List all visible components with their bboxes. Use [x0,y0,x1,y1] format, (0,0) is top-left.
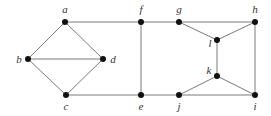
graph-labels: abcdefghijkl [16,3,258,112]
node-i [252,92,258,98]
node-label-a: a [62,3,68,15]
node-l [214,37,220,43]
node-label-k: k [207,64,213,76]
edge-h-l [217,22,255,40]
node-label-e: e [139,100,144,112]
node-h [252,19,258,25]
node-label-c: c [64,100,69,112]
node-k [214,73,220,79]
node-label-l: l [208,37,211,49]
node-g [176,19,182,25]
edge-k-j [179,76,217,95]
node-label-i: i [253,100,256,112]
node-j [176,92,182,98]
node-label-h: h [252,3,258,15]
node-label-b: b [16,53,22,65]
node-label-f: f [139,3,144,15]
edge-k-i [217,76,255,95]
edge-a-b [28,22,65,59]
graph-edges [28,22,255,95]
edge-b-c [28,59,66,95]
node-label-d: d [110,53,116,65]
node-c [63,92,69,98]
node-d [100,56,106,62]
node-b [25,56,31,62]
node-a [62,19,68,25]
edge-a-d [65,22,103,59]
node-e [138,92,144,98]
graph-diagram: abcdefghijkl [0,0,271,116]
edge-c-d [66,59,103,95]
node-f [138,19,144,25]
node-label-g: g [176,3,182,15]
node-label-j: j [175,100,180,112]
